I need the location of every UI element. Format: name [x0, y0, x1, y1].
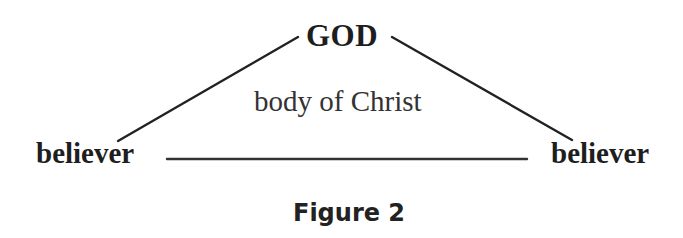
center-label: body of Christ	[254, 85, 422, 118]
node-believer-left: believer	[36, 137, 134, 170]
figure-caption: Figure 2	[293, 199, 405, 227]
node-god: GOD	[306, 18, 378, 54]
node-believer-right: believer	[551, 137, 649, 170]
figure-canvas: GOD body of Christ believer believer Fig…	[0, 0, 683, 238]
